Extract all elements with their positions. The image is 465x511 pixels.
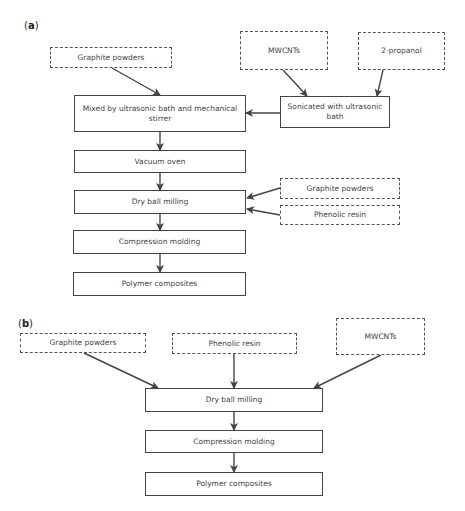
input-2-propanol: 2-propanol <box>358 32 445 70</box>
arrow-b-mwcnts-to-dry <box>314 355 381 388</box>
input-phenolic-resin: Phenolic resin <box>280 205 400 225</box>
step-polymer-composites: Polymer composites <box>73 272 246 296</box>
input-graphite-powders: Graphite powders <box>50 47 172 68</box>
panel-a-label: (a) <box>24 20 39 31</box>
b-step-compression-molding: Compression molding <box>145 430 323 453</box>
b-step-polymer-composites: Polymer composites <box>145 472 323 496</box>
step-vacuum-oven: Vacuum oven <box>74 150 246 173</box>
panel-b-label: (b) <box>18 318 33 329</box>
step-sonicated: Sonicated with ultrasonic bath <box>280 96 390 128</box>
input-mwcnts: MWCNTs <box>240 31 328 70</box>
b-input-mwcnts: MWCNTs <box>336 318 425 355</box>
flowchart-figure: (a) Graphite powders MWCNTs 2-propanol G… <box>0 0 465 511</box>
b-input-graphite-powders: Graphite powders <box>20 333 146 353</box>
input-graphite-powders-2: Graphite powders <box>280 178 400 199</box>
step-compression-molding: Compression molding <box>73 230 246 254</box>
b-input-phenolic-resin: Phenolic resin <box>172 333 297 354</box>
arrow-b-graphite-to-dry <box>84 353 158 388</box>
arrow-graphite-to-mixed <box>112 68 160 95</box>
b-step-dry-ball-milling: Dry ball milling <box>145 388 323 412</box>
step-dry-ball-milling: Dry ball milling <box>74 190 246 214</box>
arrow-graphite2-to-dry <box>247 188 280 198</box>
step-mixed: Mixed by ultrasonic bath and mechanical … <box>74 95 246 132</box>
arrow-phenolic-to-dry <box>247 209 280 215</box>
arrow-propanol-to-sonicated <box>377 70 383 96</box>
arrow-mwcnts-to-sonicated <box>283 70 307 96</box>
